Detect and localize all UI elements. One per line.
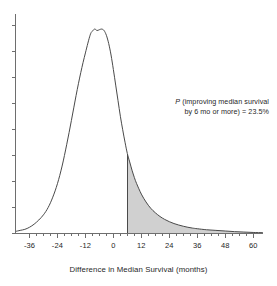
x-tick-label: 24 <box>165 241 174 250</box>
annotation-line-1-rest: (improving median survival <box>180 97 269 106</box>
x-tick-label: 48 <box>221 241 230 250</box>
x-axis-title: Difference in Median Survival (months) <box>0 265 277 274</box>
x-tick-label: 12 <box>137 241 146 250</box>
x-tick-label: 0 <box>111 241 115 250</box>
x-tick-label: 60 <box>249 241 258 250</box>
x-axis-ticks <box>29 234 253 238</box>
x-tick-label: 36 <box>193 241 202 250</box>
x-tick-label: -12 <box>80 241 91 250</box>
x-tick-label: -24 <box>52 241 63 250</box>
annotation-line-1: P (improving median survival <box>141 97 269 107</box>
y-axis-ticks <box>12 26 16 234</box>
density-plot-figure: -36-24-1201224364860 Difference in Media… <box>0 0 277 286</box>
x-tick-label: -36 <box>24 241 35 250</box>
probability-annotation: P (improving median survival by 6 mo or … <box>141 97 269 117</box>
shaded-tail-region <box>127 154 262 234</box>
annotation-line-2: by 6 mo or more) = 23.5% <box>141 107 269 117</box>
